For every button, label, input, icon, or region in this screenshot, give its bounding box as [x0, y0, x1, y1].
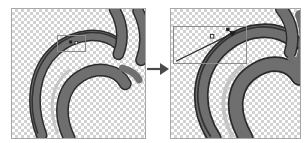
- selection-box-before[interactable]: [57, 35, 86, 52]
- transform-arrow: [146, 58, 170, 80]
- selection-box-after[interactable]: [173, 26, 247, 64]
- panel-after[interactable]: [170, 8, 301, 139]
- panel-before[interactable]: [11, 8, 146, 139]
- figure-root: [0, 0, 306, 143]
- swirl-artwork-before: [12, 9, 145, 138]
